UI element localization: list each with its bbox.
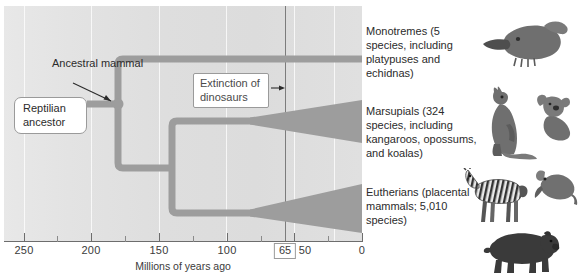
platypus-illustration [478, 18, 570, 68]
axis-tick-150 [159, 233, 160, 242]
branch-therian-stem [118, 104, 172, 168]
ancestral-mammal-arrow-head [104, 95, 112, 101]
clade-label-marsupials: Marsupials (324 species, including kanga… [366, 104, 478, 160]
reptilian-ancestor-box: Reptilian ancestor [14, 97, 87, 134]
ancestral-mammal-label: Ancestral mammal [52, 57, 143, 70]
axis-tick-25 [328, 236, 329, 242]
axis-tick-50 [294, 233, 295, 242]
mouse-illustration [532, 166, 578, 206]
axis-tick-75 [261, 236, 262, 242]
axis-tick-125 [193, 236, 194, 242]
axis-label-150: 150 [150, 244, 169, 256]
ancestral-mammal-node [113, 99, 124, 110]
koala-illustration [534, 92, 578, 144]
phylogeny-diagram: Ancestral mammal Reptilian ancestor Exti… [0, 0, 579, 280]
axis-label-0: 0 [359, 244, 365, 256]
axis-tick-200 [91, 233, 92, 242]
extinction-of-dinosaurs-box: Extinction of dinosaurs [193, 73, 269, 108]
extinction-arrow-head [279, 86, 285, 91]
axis-tick-225 [57, 236, 58, 242]
axis-tick-0 [362, 233, 363, 242]
axis-title: Millions of years ago [135, 260, 231, 272]
axis-label-65-highlight: 65 [274, 243, 296, 259]
clade-label-monotremes: Monotremes (5 species, including platypu… [366, 24, 478, 80]
axis-tick-100 [227, 233, 228, 242]
axis-label-100: 100 [218, 244, 237, 256]
wedge-eutherians [250, 184, 362, 233]
zebra-illustration [459, 168, 531, 226]
axis-tick-250 [24, 233, 25, 242]
axis-label-250: 250 [15, 244, 34, 256]
axis-tick-175 [125, 236, 126, 242]
bear-illustration [480, 226, 560, 274]
axis-label-50: 50 [299, 244, 312, 256]
kangaroo-illustration [480, 84, 538, 162]
branch-marsupials [172, 121, 255, 168]
branch-eutherians [172, 168, 255, 213]
axis-label-200: 200 [82, 244, 101, 256]
